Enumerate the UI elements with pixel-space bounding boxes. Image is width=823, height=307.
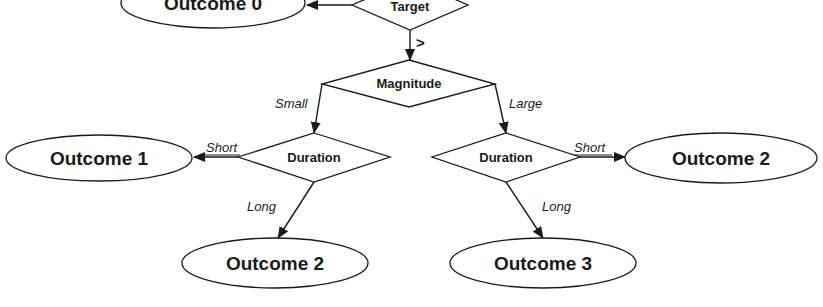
- edge-right-long: Long: [506, 182, 572, 238]
- outcome-node-2-bottom: Outcome 2: [182, 238, 368, 288]
- node-label: Outcome 1: [50, 148, 149, 169]
- outcome-node-1: Outcome 1: [6, 135, 192, 181]
- edge-label-long-right: Long: [542, 199, 572, 214]
- edge-label-greater-than: >: [416, 34, 425, 51]
- edge-magnitude-large: Large: [495, 84, 542, 133]
- decision-node-magnitude: Magnitude: [322, 60, 495, 107]
- edge-right-short: Short: [574, 140, 625, 157]
- outcome-node-0: Outcome 0: [121, 0, 305, 28]
- arrow-icon: [278, 182, 314, 238]
- edge-label-short-left: Short: [206, 140, 238, 155]
- node-label: Target: [391, 0, 430, 14]
- edge-label-long-left: Long: [247, 199, 277, 214]
- edge-left-short: Short: [194, 140, 240, 157]
- node-label: Duration: [287, 150, 341, 165]
- edge-left-long: Long: [247, 182, 314, 238]
- edge-label-short-right: Short: [574, 140, 606, 155]
- arrow-icon: [495, 84, 506, 133]
- node-label: Outcome 2: [226, 253, 324, 274]
- node-label: Duration: [479, 150, 533, 165]
- arrow-icon: [314, 84, 322, 133]
- node-label: Magnitude: [377, 76, 442, 91]
- edge-magnitude-small: Small: [275, 84, 322, 133]
- outcome-node-2-right: Outcome 2: [625, 133, 817, 183]
- node-label: Outcome 2: [672, 148, 770, 169]
- decision-tree-diagram: > Small Large Short Long Short Long Targ…: [0, 0, 823, 307]
- outcome-node-3: Outcome 3: [450, 238, 636, 288]
- node-label: Outcome 3: [494, 253, 592, 274]
- decision-node-duration-right: Duration: [432, 133, 580, 182]
- decision-node-target: Target: [352, 0, 468, 30]
- edge-target-to-magnitude: >: [410, 30, 425, 60]
- node-label: Outcome 0: [164, 0, 262, 14]
- decision-node-duration-left: Duration: [238, 133, 390, 182]
- edge-label-small: Small: [275, 96, 309, 111]
- edge-label-large: Large: [509, 96, 542, 111]
- arrow-icon: [506, 182, 543, 238]
